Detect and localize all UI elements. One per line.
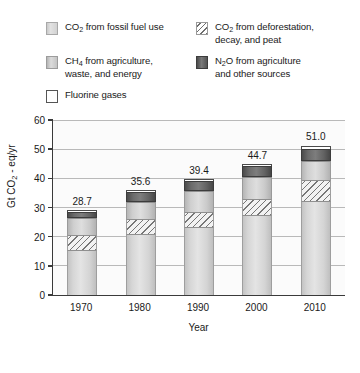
bar-total-label: 44.7	[248, 150, 267, 161]
bar-segment-ch4	[67, 218, 97, 235]
bar-1990	[184, 179, 214, 295]
bar-segment-co2-fossil	[67, 251, 97, 295]
y-axis-tick-label: 10	[34, 260, 45, 271]
bar-1970	[67, 210, 97, 295]
n2o-swatch-icon	[196, 56, 208, 69]
legend-entry-ch4: CH4 from agriculture,waste, and energy	[46, 55, 196, 79]
y-axis-tick-label: 60	[34, 115, 45, 126]
bar-segment-co2-deforestation	[67, 235, 97, 252]
bar-total-label: 35.6	[131, 176, 150, 187]
bar-segment-n2o	[126, 192, 156, 201]
y-axis-tick	[48, 119, 53, 120]
legend-label-n2o: N2O from agricultureand other sources	[215, 55, 301, 79]
x-axis-tick-label: 1980	[128, 302, 150, 313]
bar-total-label: 39.4	[189, 165, 208, 176]
bar-segment-co2-fossil	[184, 228, 214, 295]
legend-entry-co2-fossil: CO2 from fossil fuel use	[46, 21, 196, 35]
bar-total-label: 28.7	[72, 196, 91, 207]
bar-segment-co2-fossil	[242, 216, 272, 295]
y-axis-tick-label: 40	[34, 173, 45, 184]
y-axis-tick	[48, 236, 53, 237]
legend-label-ch4: CH4 from agriculture,waste, and energy	[65, 55, 153, 79]
y-axis-tick-label: 20	[34, 231, 45, 242]
bar-segment-co2-deforestation	[301, 180, 331, 202]
x-axis-tick-label: 2010	[304, 302, 326, 313]
legend-entry-fluorine: Fluorine gases	[46, 89, 196, 103]
gridline	[53, 120, 345, 121]
bar-2000	[242, 164, 272, 295]
x-axis-title: Year	[52, 322, 345, 333]
bar-segment-ch4	[184, 191, 214, 211]
y-axis-tick	[48, 178, 53, 179]
bar-segment-co2-deforestation	[242, 199, 272, 217]
legend-label-co2-deforestation: CO2 from deforestation,decay, and peat	[215, 21, 314, 45]
bar-segment-n2o	[184, 181, 214, 191]
y-axis-tick-label: 0	[39, 290, 45, 301]
y-axis-tick-label: 30	[34, 202, 45, 213]
fluorine-swatch-icon	[46, 90, 58, 103]
ch4-swatch-icon	[46, 56, 58, 69]
bar-1980	[126, 190, 156, 295]
plot-area: 010203040506028.735.639.444.751.0	[52, 120, 345, 296]
x-axis-tick-label: 2000	[245, 302, 267, 313]
x-axis-tick-label: 1970	[70, 302, 92, 313]
co2-fossil-swatch-icon	[46, 22, 58, 35]
bar-segment-ch4	[242, 177, 272, 199]
bar-segment-co2-deforestation	[126, 219, 156, 235]
bar-segment-co2-fossil	[126, 235, 156, 295]
co2-deforestation-swatch-icon	[196, 22, 208, 35]
bar-segment-n2o	[301, 149, 331, 161]
bar-segment-n2o	[242, 166, 272, 177]
legend-label-co2-fossil: CO2 from fossil fuel use	[65, 21, 164, 34]
x-axis-tick-label: 1990	[187, 302, 209, 313]
legend-entry-co2-deforestation: CO2 from deforestation,decay, and peat	[196, 21, 356, 45]
bar-segment-co2-deforestation	[184, 212, 214, 228]
y-axis-title: Gt CO2 - eq/yr	[6, 144, 17, 208]
y-axis-tick	[48, 207, 53, 208]
bar-2010	[301, 146, 331, 295]
y-axis-tick	[48, 265, 53, 266]
bar-total-label: 51.0	[306, 131, 325, 142]
legend-label-fluorine: Fluorine gases	[65, 89, 127, 101]
bar-segment-ch4	[301, 161, 331, 180]
legend-entry-n2o: N2O from agricultureand other sources	[196, 55, 356, 79]
y-axis-tick	[48, 294, 53, 295]
bar-segment-ch4	[126, 202, 156, 220]
bar-segment-co2-fossil	[301, 202, 331, 295]
y-axis-tick-label: 50	[34, 144, 45, 155]
chart-legend: CO2 from fossil fuel use CO2 from defore…	[0, 8, 360, 108]
y-axis-tick	[48, 148, 53, 149]
